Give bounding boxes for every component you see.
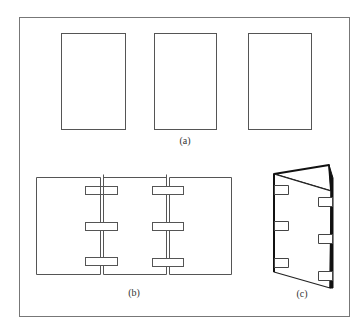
panel-a (62, 34, 312, 130)
tab (153, 223, 184, 231)
panel-b (37, 175, 232, 275)
panel-a-label: (a) (179, 135, 190, 147)
panel-b-label: (b) (128, 287, 140, 299)
tab (275, 222, 289, 231)
tab (153, 259, 184, 267)
tab (275, 186, 289, 195)
tab (153, 187, 184, 195)
tab (86, 187, 118, 195)
panel-c (274, 165, 333, 288)
tab (319, 198, 333, 207)
sheet-1 (62, 34, 126, 130)
tab (319, 235, 333, 244)
tab (319, 272, 333, 281)
tab (86, 258, 118, 266)
tab (86, 223, 118, 231)
tab (275, 259, 289, 268)
panel-c-label: (c) (296, 288, 307, 300)
sheet-2 (155, 34, 217, 130)
binding-diagram: (a) (b) (0, 0, 360, 327)
sheet-3 (249, 34, 312, 130)
